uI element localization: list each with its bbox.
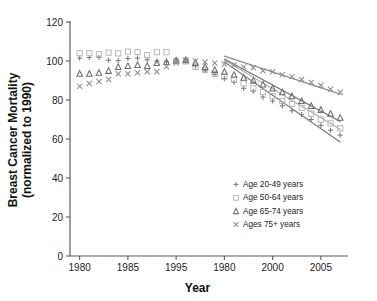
x-tick-label: 1980 (213, 262, 236, 273)
y-axis-title-line2: (normalized to 1990) (20, 82, 34, 198)
legend-label-1: Age 20-49 years (243, 180, 303, 189)
breast-cancer-mortality-chart: 020406080100120 198019851995198020002005… (0, 0, 377, 301)
y-tick-label: 40 (52, 173, 64, 184)
y-tick-label: 60 (52, 134, 64, 145)
y-tick-label: 20 (52, 212, 64, 223)
x-tick-label: 1995 (165, 262, 188, 273)
x-tick-label: 2005 (310, 262, 333, 273)
chart-figure: 020406080100120 198019851995198020002005… (0, 0, 377, 301)
x-tick-label: 1980 (69, 262, 92, 273)
legend-label-3: Age 65-74 years (243, 207, 303, 216)
x-axis-title: Year (185, 281, 211, 295)
legend-label-2: Age 50-64 years (243, 193, 303, 202)
y-tick-label: 80 (52, 95, 64, 106)
x-tick-label: 1985 (117, 262, 140, 273)
legend-label-4: Ages 75+ years (243, 220, 300, 229)
y-axis-title-line1: Breast Cancer Mortality (6, 72, 20, 207)
y-tick-label: 0 (57, 251, 63, 262)
y-tick-label: 120 (46, 17, 63, 28)
y-tick-label: 100 (46, 56, 63, 67)
x-tick-label: 2000 (262, 262, 285, 273)
